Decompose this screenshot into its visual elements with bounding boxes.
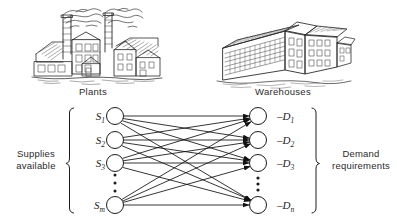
demand-requirements-line1: Demand: [327, 148, 395, 160]
supplies-available-line2: available: [6, 160, 66, 172]
supply-label-s3-sub: 3: [101, 163, 105, 172]
transportation-network-figure: Plants: [0, 0, 397, 221]
demand-label-d3-text: –D: [277, 157, 290, 169]
demand-node-d3: [250, 155, 267, 172]
supply-ellipsis-dots: [114, 174, 117, 193]
demand-brace: [312, 108, 320, 213]
supply-label-sm-sub: m: [100, 205, 105, 214]
supplies-brace: [66, 108, 74, 213]
supply-node-s1: [107, 108, 124, 125]
demand-label-dn-sub: n: [290, 205, 294, 214]
supply-node-sm: [107, 197, 124, 214]
demand-requirements-line2: requirements: [327, 160, 395, 172]
demand-nodes: [250, 108, 267, 214]
supply-node-s2: [107, 132, 124, 149]
supply-label-s1-sub: 1: [101, 116, 105, 125]
supply-label-s2: S2: [79, 134, 105, 149]
demand-label-d3: –D3: [277, 157, 311, 172]
supply-label-s3: S3: [79, 157, 105, 172]
supplies-available-line1: Supplies: [6, 148, 66, 160]
demand-label-d2-text: –D: [277, 134, 290, 146]
demand-label-dn: –Dn: [277, 199, 311, 214]
demand-label-d1-text: –D: [277, 110, 290, 122]
demand-label-d1: –D1: [277, 110, 311, 125]
demand-node-d2: [250, 132, 267, 149]
demand-requirements-label: Demand requirements: [327, 148, 395, 171]
demand-label-dn-text: –D: [277, 199, 290, 211]
demand-label-d2-sub: 2: [290, 140, 294, 149]
supplies-available-label: Supplies available: [6, 148, 66, 171]
supply-node-s3: [107, 155, 124, 172]
supply-label-sm: Sm: [79, 199, 105, 214]
supply-label-s2-sub: 2: [101, 140, 105, 149]
demand-label-d1-sub: 1: [290, 116, 294, 125]
demand-node-d1: [250, 108, 267, 125]
bipartite-network-graph: [0, 0, 397, 221]
network-edges: [121, 116, 251, 205]
demand-node-dn: [250, 197, 267, 214]
supply-label-s1: S1: [79, 110, 105, 125]
demand-ellipsis-dots: [256, 176, 259, 191]
demand-label-d3-sub: 3: [290, 163, 294, 172]
demand-label-d2: –D2: [277, 134, 311, 149]
